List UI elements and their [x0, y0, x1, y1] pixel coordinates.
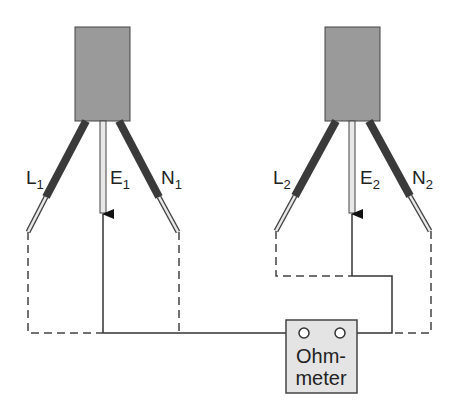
- ohmmeter: Ohm- meter: [286, 320, 357, 393]
- label-e2: E2: [360, 167, 380, 192]
- label-n1: N1: [161, 167, 182, 192]
- plug-body-1: [75, 27, 130, 121]
- dashed-links: [28, 231, 431, 333]
- meter-terminal-left: [299, 328, 309, 338]
- meter-terminal-right: [335, 328, 345, 338]
- label-l1: L1: [26, 167, 44, 192]
- appliance-1: L1 E1 N1: [26, 27, 182, 232]
- plug-body-2: [325, 27, 380, 121]
- wire-l2: [276, 121, 336, 231]
- meter-label-line1: Ohm-: [296, 345, 346, 367]
- label-e1: E1: [110, 167, 130, 192]
- appliance-2: L2 E2 N2: [273, 27, 433, 231]
- meter-label-line2: meter: [295, 367, 346, 389]
- label-l2: L2: [273, 167, 291, 192]
- wire-e1: [100, 121, 106, 213]
- label-n2: N2: [412, 167, 433, 192]
- test-leads: [103, 214, 392, 333]
- wire-e2: [349, 121, 355, 213]
- earth-continuity-test-diagram: L1 E1 N1 L2 E2 N2: [0, 0, 462, 410]
